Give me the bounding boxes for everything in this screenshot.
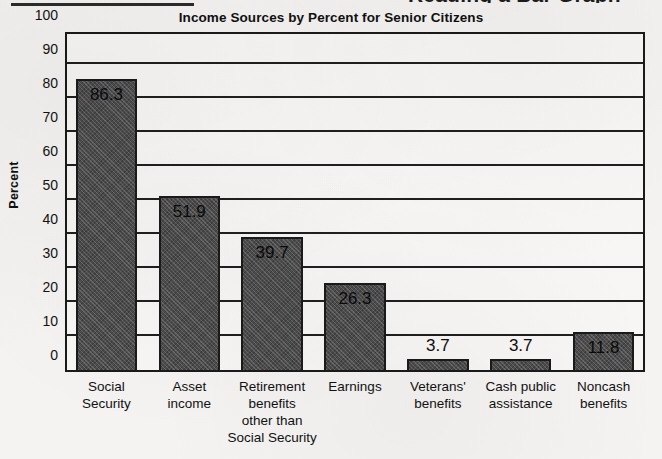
plot-area bbox=[65, 32, 645, 372]
x-axis-category-label-line: benefits bbox=[551, 395, 657, 412]
y-axis-tick-label: 10 bbox=[14, 313, 58, 329]
y-axis-tick-label: 70 bbox=[14, 109, 58, 125]
y-axis-tick-label: 90 bbox=[14, 41, 58, 57]
y-axis-tick-label: 30 bbox=[14, 245, 58, 261]
x-axis-category-label-line: benefits bbox=[219, 395, 325, 412]
gridline bbox=[67, 164, 643, 166]
y-axis-tick-label: 50 bbox=[14, 177, 58, 193]
gridline bbox=[67, 232, 643, 234]
y-axis-tick-label: 60 bbox=[14, 143, 58, 159]
chart-title: Income Sources by Percent for Senior Cit… bbox=[0, 10, 662, 25]
gridline bbox=[67, 198, 643, 200]
clipped-page-heading: Reading a Bar Graph bbox=[408, 0, 658, 3]
y-axis-tick-label: 100 bbox=[14, 7, 58, 23]
gridline bbox=[67, 334, 643, 336]
x-axis-category-label-line: Social Security bbox=[219, 429, 325, 446]
gridline bbox=[67, 130, 643, 132]
y-axis-tick-label: 80 bbox=[14, 75, 58, 91]
y-axis-tick-label: 40 bbox=[14, 211, 58, 227]
gridline bbox=[67, 300, 643, 302]
y-axis-tick-label: 0 bbox=[14, 347, 58, 363]
gridline bbox=[67, 62, 643, 64]
bar-chart-page: Reading a Bar Graph Income Sources by Pe… bbox=[0, 0, 662, 459]
x-axis-category-label-line: other than bbox=[219, 412, 325, 429]
x-axis-category-labels: SocialSecurityAssetincomeRetirementbenef… bbox=[65, 378, 645, 458]
y-axis-tick-label: 20 bbox=[14, 279, 58, 295]
y-axis-tick-labels: 1009080706050403020100 bbox=[8, 32, 58, 372]
top-horizontal-rule bbox=[11, 3, 194, 6]
x-axis-category-label-line: Noncash bbox=[551, 378, 657, 395]
gridline bbox=[67, 96, 643, 98]
x-axis-category-label: Noncashbenefits bbox=[551, 378, 657, 412]
gridline bbox=[67, 266, 643, 268]
